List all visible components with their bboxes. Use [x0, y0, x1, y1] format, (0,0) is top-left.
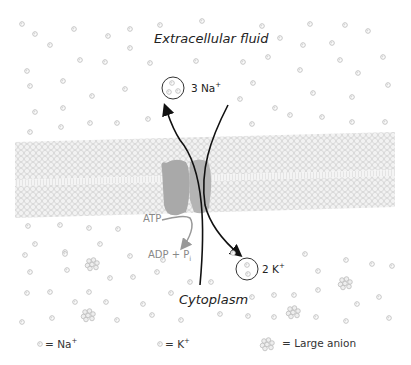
- adp-pi-label: ADP + Pi: [148, 249, 191, 263]
- legend-k-symbol: [158, 342, 163, 347]
- legend-na-symbol: [38, 342, 43, 347]
- sodium-potassium-pump-diagram: [0, 0, 411, 365]
- cytoplasm-label: Cytoplasm: [179, 292, 248, 307]
- atp-hydrolysis-arrow: [162, 217, 192, 248]
- legend-k: = K+: [165, 337, 190, 350]
- extracellular-label: Extracellular fluid: [154, 31, 268, 46]
- na-group-circle: [162, 77, 184, 99]
- legend-anion-symbol: [260, 338, 274, 351]
- legend-na: = Na+: [45, 337, 77, 350]
- legend-large-anion: = Large anion: [282, 337, 356, 349]
- k-transport-label: 2 K+: [262, 262, 285, 275]
- atp-label: ATP: [143, 213, 161, 224]
- k-group-circle: [236, 258, 258, 280]
- cytoplasm-ions: [20, 223, 395, 325]
- na-transport-label: 3 Na+: [191, 81, 221, 94]
- large-anions: [81, 258, 352, 322]
